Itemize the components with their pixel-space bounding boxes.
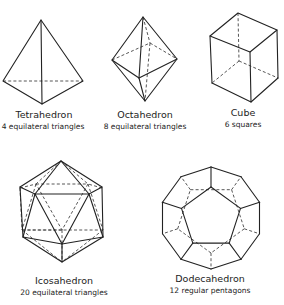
dodecahedron-name: Dodecahedron <box>175 273 244 284</box>
edge <box>182 187 212 208</box>
hidden-edge <box>181 177 190 190</box>
edge <box>163 202 182 208</box>
cube-name: Cube <box>231 107 256 118</box>
octahedron-description: 8 equilateral triangles <box>104 122 187 131</box>
cube-drawing <box>210 13 278 102</box>
hidden-edge <box>178 229 211 253</box>
tetrahedron-description: 4 equilateral triangles <box>2 122 85 131</box>
edge <box>229 243 241 259</box>
hidden-edge <box>244 229 259 234</box>
octahedron-drawing <box>112 17 177 101</box>
hidden-edge <box>163 229 178 234</box>
tetrahedron-drawing <box>3 20 83 104</box>
edge <box>181 167 211 177</box>
edge <box>163 234 182 259</box>
edge <box>241 234 260 259</box>
edge <box>182 208 193 243</box>
tetrahedron-name: Tetrahedron <box>16 109 73 120</box>
cube-description: 6 squares <box>225 120 262 129</box>
edge <box>181 243 193 259</box>
edge <box>241 177 260 203</box>
platonic-solids-diagram <box>0 0 284 305</box>
dodecahedron-drawing <box>163 167 260 269</box>
icosahedron-description: 20 equilateral triangles <box>20 288 107 297</box>
icosahedron-name: Icosahedron <box>35 275 93 286</box>
edge <box>163 177 182 203</box>
edge <box>211 167 241 177</box>
dodecahedron-description: 12 regular pentagons <box>170 286 251 295</box>
edge <box>241 202 260 208</box>
hidden-edge <box>178 190 191 229</box>
hidden-edge <box>232 177 241 190</box>
hidden-edge <box>211 229 244 253</box>
hidden-edge <box>232 190 245 229</box>
edge <box>181 259 211 269</box>
edge <box>229 208 240 243</box>
edge <box>211 187 241 208</box>
octahedron-name: Octahedron <box>117 109 173 120</box>
edge <box>211 259 241 269</box>
icosahedron-drawing <box>20 161 103 262</box>
